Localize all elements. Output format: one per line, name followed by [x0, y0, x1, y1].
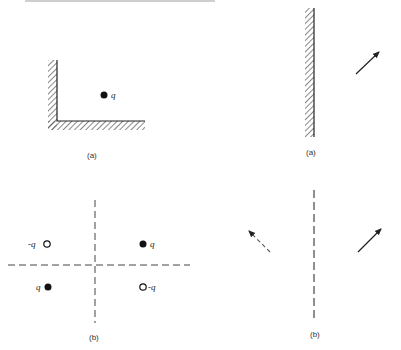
caption-left-a: (a) — [87, 151, 97, 160]
caption-left-b: (b) — [89, 333, 99, 342]
charge-label: q — [111, 90, 116, 100]
charge-q-icon — [101, 92, 108, 99]
charge-label-lr: -q — [148, 282, 156, 292]
charge-label-ll: q — [36, 282, 41, 292]
image-charge-open-icon — [140, 284, 146, 290]
charge-filled-icon — [45, 284, 52, 291]
panel-left-b: -q q q -q (b) — [8, 200, 190, 342]
panel-right-b: (b) — [249, 190, 381, 339]
arrow-icon — [358, 229, 381, 252]
charge-label-ul: -q — [28, 239, 36, 249]
charge-filled-icon — [140, 241, 147, 248]
panel-right-a: (a) — [305, 8, 379, 157]
plane-wall — [305, 8, 314, 137]
figure-canvas: q (a) -q q q -q (b) (a) (b) — [0, 0, 401, 350]
charge-label-ur: q — [150, 239, 155, 249]
top-text-fragment — [25, 0, 215, 2]
caption-right-b: (b) — [310, 330, 320, 339]
arrow-icon — [356, 52, 379, 74]
caption-right-a: (a) — [306, 148, 316, 157]
corner-wall — [48, 60, 145, 130]
image-arrow-dashed-icon — [249, 231, 270, 252]
image-charge-open-icon — [44, 241, 50, 247]
panel-left-a: q (a) — [48, 60, 145, 160]
